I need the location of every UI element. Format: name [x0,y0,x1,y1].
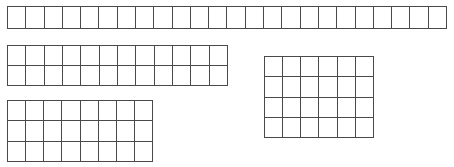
unit-square-cell [45,46,63,66]
unit-square-cell [265,98,283,118]
unit-square-cell [45,66,63,86]
unit-square-cell [8,101,26,121]
unit-square-cell [62,142,80,162]
unit-square-cell [26,121,44,141]
unit-square-cell [282,7,300,29]
unit-square-cell [100,66,118,86]
unit-square-cell [283,118,301,138]
unit-square-cell [117,101,135,121]
middle-left-grid [7,45,228,86]
unit-square-cell [135,101,153,121]
unit-square-cell [301,77,319,97]
unit-square-cell [136,7,154,29]
unit-square-cell [337,7,355,29]
unit-square-cell [338,118,356,138]
unit-square-cell [81,7,99,29]
bottom-left-grid [7,100,153,162]
unit-square-cell [173,7,191,29]
unit-square-cell [319,57,337,77]
unit-square-cell [191,66,209,86]
unit-square-cell [63,66,81,86]
unit-square-cell [265,118,283,138]
unit-square-cell [117,142,135,162]
diagram-canvas [0,0,454,167]
unit-square-cell [26,7,44,29]
unit-square-cell [118,46,136,66]
unit-square-cell [44,101,62,121]
unit-square-cell [392,7,410,29]
unit-square-cell [319,7,337,29]
unit-square-cell [191,46,209,66]
unit-square-cell [319,77,337,97]
unit-square-cell [210,66,228,86]
unit-square-cell [264,7,282,29]
unit-square-cell [429,7,447,29]
unit-square-cell [173,66,191,86]
unit-square-cell [338,57,356,77]
unit-square-cell [301,7,319,29]
unit-square-cell [265,77,283,97]
right-grid [264,56,374,138]
unit-square-cell [45,7,63,29]
unit-square-cell [8,121,26,141]
unit-square-cell [356,7,374,29]
unit-square-cell [81,121,99,141]
unit-square-cell [246,7,264,29]
unit-square-cell [356,118,374,138]
unit-square-cell [265,57,283,77]
unit-square-cell [209,7,227,29]
unit-square-cell [283,57,301,77]
unit-square-cell [154,7,172,29]
unit-square-cell [81,66,99,86]
unit-square-cell [63,46,81,66]
unit-square-cell [155,46,173,66]
unit-square-cell [99,142,117,162]
unit-square-cell [338,77,356,97]
unit-square-cell [62,101,80,121]
unit-square-cell [356,77,374,97]
unit-square-cell [301,57,319,77]
unit-square-cell [356,98,374,118]
unit-square-cell [118,7,136,29]
unit-square-cell [44,142,62,162]
unit-square-cell [8,7,26,29]
top-strip-grid [7,6,447,29]
unit-square-cell [155,66,173,86]
unit-square-cell [136,46,154,66]
unit-square-cell [136,66,154,86]
unit-square-cell [81,101,99,121]
unit-square-cell [62,121,80,141]
unit-square-cell [301,98,319,118]
unit-square-cell [356,57,374,77]
unit-square-cell [301,118,319,138]
unit-square-cell [99,7,117,29]
unit-square-cell [191,7,209,29]
unit-square-cell [117,121,135,141]
unit-square-cell [63,7,81,29]
unit-square-cell [173,46,191,66]
unit-square-cell [135,142,153,162]
unit-square-cell [338,98,356,118]
unit-square-cell [26,142,44,162]
unit-square-cell [283,98,301,118]
unit-square-cell [99,101,117,121]
unit-square-cell [410,7,428,29]
unit-square-cell [99,121,117,141]
unit-square-cell [26,46,44,66]
unit-square-cell [81,46,99,66]
unit-square-cell [319,118,337,138]
unit-square-cell [283,77,301,97]
unit-square-cell [118,66,136,86]
unit-square-cell [8,46,26,66]
unit-square-cell [26,66,44,86]
unit-square-cell [8,142,26,162]
unit-square-cell [26,101,44,121]
unit-square-cell [319,98,337,118]
unit-square-cell [8,66,26,86]
unit-square-cell [100,46,118,66]
unit-square-cell [374,7,392,29]
unit-square-cell [81,142,99,162]
unit-square-cell [210,46,228,66]
unit-square-cell [44,121,62,141]
unit-square-cell [135,121,153,141]
